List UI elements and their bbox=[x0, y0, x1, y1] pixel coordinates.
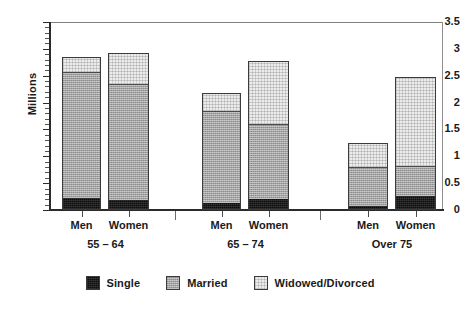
x-axis-tick bbox=[82, 211, 83, 217]
bar-segment-single bbox=[109, 200, 148, 210]
y-axis-tick bbox=[43, 156, 49, 157]
y-axis-tick bbox=[43, 210, 49, 211]
y-axis-tick bbox=[43, 22, 49, 23]
y-axis-minor-tick bbox=[45, 205, 49, 206]
x-axis-label-women-3: Women bbox=[239, 219, 299, 231]
y-axis-minor-tick bbox=[45, 108, 49, 109]
y-axis-minor-tick bbox=[45, 119, 49, 120]
y-axis-tick bbox=[43, 49, 49, 50]
legend-item-married[interactable]: Married bbox=[166, 276, 227, 290]
bar-men-over75[interactable] bbox=[348, 143, 388, 210]
bar-segment-married bbox=[63, 72, 100, 197]
y-axis-minor-tick bbox=[45, 97, 49, 98]
y-axis-minor-tick bbox=[45, 167, 49, 168]
y-axis-minor-tick bbox=[45, 124, 49, 125]
bar-segment-widowed-divorced bbox=[109, 54, 148, 85]
y-axis-tick bbox=[43, 129, 49, 130]
bar-segment-widowed-divorced bbox=[249, 62, 288, 124]
x-axis-tick bbox=[269, 211, 270, 217]
bar-women-over75[interactable] bbox=[395, 77, 436, 210]
x-axis-group-separator-tick bbox=[175, 211, 176, 220]
bar-segment-single bbox=[349, 206, 387, 210]
x-axis-tick bbox=[129, 211, 130, 217]
y-axis-minor-tick bbox=[45, 199, 49, 200]
x-axis-group-label-0: 55 – 64 bbox=[56, 238, 156, 250]
y-axis-minor-tick bbox=[45, 113, 49, 114]
chart-legend: SingleMarriedWidowed/Divorced bbox=[0, 276, 460, 290]
bar-segment-single bbox=[63, 198, 100, 210]
y-axis-minor-tick bbox=[45, 189, 49, 190]
y-axis-minor-tick bbox=[45, 27, 49, 28]
y-axis-minor-tick bbox=[45, 38, 49, 39]
y-axis-minor-tick bbox=[45, 194, 49, 195]
y-axis-tick bbox=[43, 103, 49, 104]
y-axis-minor-tick bbox=[45, 162, 49, 163]
y-axis-minor-tick bbox=[45, 146, 49, 147]
y-axis-tick bbox=[43, 76, 49, 77]
y-axis-tick-label: 3 bbox=[420, 42, 460, 54]
x-axis-group-label-1: 65 – 74 bbox=[196, 238, 296, 250]
bar-segment-married bbox=[396, 166, 435, 196]
bar-segment-widowed-divorced bbox=[63, 58, 100, 73]
y-axis-minor-tick bbox=[45, 178, 49, 179]
y-axis-title: Millions bbox=[26, 64, 38, 124]
y-axis-minor-tick bbox=[45, 33, 49, 34]
bar-segment-married bbox=[109, 84, 148, 199]
legend-swatch-icon bbox=[254, 276, 268, 290]
bar-segment-widowed-divorced bbox=[349, 144, 387, 167]
bar-women-6574[interactable] bbox=[248, 61, 289, 210]
bar-segment-widowed-divorced bbox=[203, 94, 240, 111]
legend-swatch-icon bbox=[86, 276, 100, 290]
legend-item-single[interactable]: Single bbox=[86, 276, 141, 290]
y-axis-minor-tick bbox=[45, 151, 49, 152]
y-axis-minor-tick bbox=[45, 60, 49, 61]
y-axis-line bbox=[49, 22, 51, 211]
bar-segment-single bbox=[203, 203, 240, 210]
y-axis-tick-label: 3.5 bbox=[420, 15, 460, 27]
y-axis-minor-tick bbox=[45, 172, 49, 173]
bar-segment-married bbox=[249, 124, 288, 199]
legend-label: Married bbox=[187, 277, 227, 289]
y-axis-minor-tick bbox=[45, 135, 49, 136]
legend-label: Widowed/Divorced bbox=[275, 277, 375, 289]
y-axis-tick bbox=[43, 183, 49, 184]
y-axis-minor-tick bbox=[45, 65, 49, 66]
y-axis-minor-tick bbox=[45, 81, 49, 82]
y-axis-minor-tick bbox=[45, 54, 49, 55]
y-axis-minor-tick bbox=[45, 86, 49, 87]
bar-women-5564[interactable] bbox=[108, 53, 149, 210]
x-axis-tick bbox=[416, 211, 417, 217]
bar-men-6574[interactable] bbox=[202, 93, 241, 210]
bar-segment-single bbox=[396, 196, 435, 210]
bar-segment-single bbox=[249, 199, 288, 210]
bar-segment-widowed-divorced bbox=[396, 78, 435, 167]
bar-segment-married bbox=[349, 167, 387, 206]
y-axis-minor-tick bbox=[45, 43, 49, 44]
x-axis-group-separator-tick bbox=[320, 211, 321, 220]
x-axis-label-women-5: Women bbox=[386, 219, 446, 231]
legend-swatch-icon bbox=[166, 276, 180, 290]
legend-label: Single bbox=[107, 277, 141, 289]
x-axis-tick bbox=[222, 211, 223, 217]
legend-item-widowed-divorced[interactable]: Widowed/Divorced bbox=[254, 276, 375, 290]
bar-segment-married bbox=[203, 111, 240, 204]
y-axis-minor-tick bbox=[45, 70, 49, 71]
bar-men-5564[interactable] bbox=[62, 57, 101, 210]
x-axis-group-label-2: Over 75 bbox=[342, 238, 442, 250]
y-axis-minor-tick bbox=[45, 92, 49, 93]
x-axis-label-women-1: Women bbox=[99, 219, 159, 231]
y-axis-minor-tick bbox=[45, 140, 49, 141]
stacked-bar-chart: Millions 00.511.522.533.5 MenWomenMenWom… bbox=[0, 0, 460, 310]
x-axis-tick bbox=[368, 211, 369, 217]
